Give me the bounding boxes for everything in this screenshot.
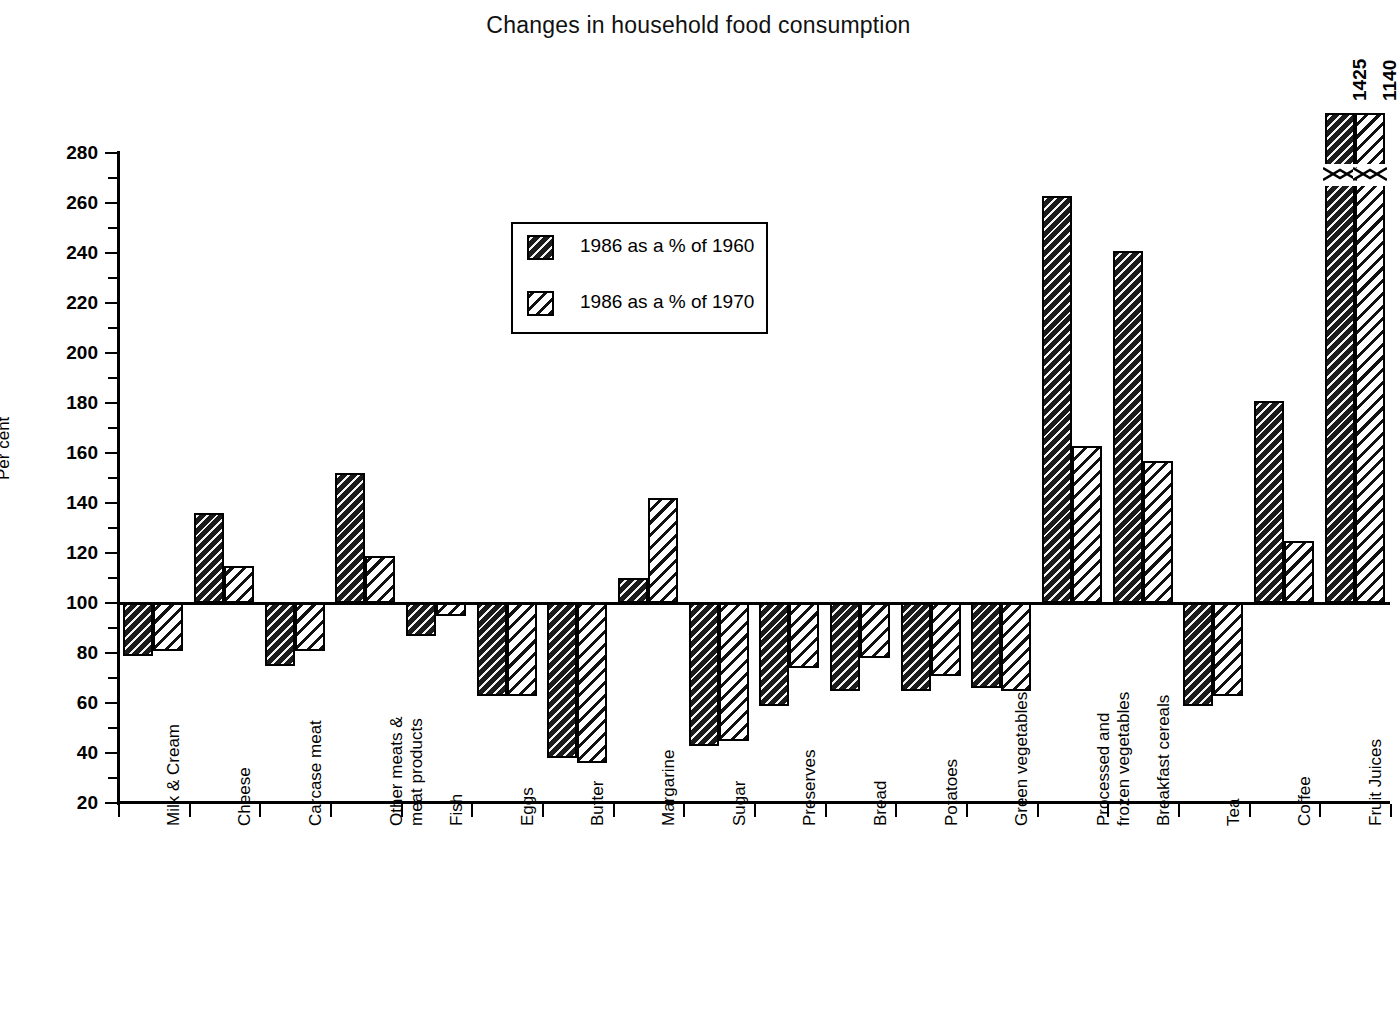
chart-legend: 1986 as a % of 1960 1986 as a % of 1970 — [511, 222, 768, 334]
x-tick — [189, 804, 191, 817]
x-axis-label-0: Milk & Cream — [164, 724, 183, 826]
legend-swatch-dark-icon — [527, 235, 554, 260]
bar-s1-11[interactable] — [901, 603, 931, 691]
x-axis-label-11: Potatoes — [942, 759, 961, 826]
bar-value-annotation: 1140 — [1379, 60, 1397, 101]
x-axis-label-line: Sugar — [730, 781, 749, 826]
x-axis-label-9: Preserves — [800, 749, 819, 826]
x-tick — [1037, 804, 1039, 817]
x-axis-label-line: Preserves — [800, 749, 819, 826]
bar-s2-12[interactable] — [1001, 603, 1031, 691]
bar-s2-14[interactable] — [1143, 461, 1173, 604]
bar-s1-6[interactable] — [547, 603, 577, 758]
bar-s2-9[interactable] — [789, 603, 819, 668]
x-axis-label-line: Fruit Juices — [1366, 739, 1385, 826]
x-tick — [825, 804, 827, 817]
y-tick-label: 60 — [40, 692, 98, 714]
x-tick — [895, 804, 897, 817]
x-axis-label-line: Tea — [1224, 799, 1243, 826]
bar-s2-0[interactable] — [153, 603, 183, 651]
bar-s1-5[interactable] — [477, 603, 507, 696]
bar-s1-16[interactable] — [1254, 401, 1284, 604]
bar-s2-10[interactable] — [860, 603, 890, 658]
chart-figure: Changes in household food consumption Pe… — [0, 0, 1397, 1031]
x-axis-label-line: Milk & Cream — [164, 724, 183, 826]
y-tick-label: 220 — [40, 292, 98, 314]
bar-s1-10[interactable] — [830, 603, 860, 691]
legend-label-1: 1986 as a % of 1970 — [580, 291, 754, 313]
y-tick-label: 160 — [40, 442, 98, 464]
bar-s1-7[interactable] — [618, 578, 648, 603]
bar-s2-16[interactable] — [1284, 541, 1314, 604]
x-axis-label-4: Fish — [447, 794, 466, 826]
x-axis-label-7: Margarine — [659, 749, 678, 826]
x-axis-label-line: Potatoes — [942, 759, 961, 826]
bar-s1-8[interactable] — [689, 603, 719, 746]
bar-s1-3[interactable] — [335, 473, 365, 603]
x-axis-label-17: Fruit Juices — [1366, 739, 1385, 826]
x-axis-label-line: Fish — [447, 794, 466, 826]
x-tick — [683, 804, 685, 817]
x-axis-label-6: Butter — [588, 781, 607, 826]
x-tick — [118, 804, 120, 817]
y-tick-label: 40 — [40, 742, 98, 764]
bar-s1-12[interactable] — [971, 603, 1001, 688]
y-tick-label: 80 — [40, 642, 98, 664]
y-axis-title: Per cent — [0, 417, 14, 480]
bar-s2-15[interactable] — [1213, 603, 1243, 696]
x-axis-label-12: Green vegetables — [1012, 692, 1031, 826]
bar-s2-6[interactable] — [577, 603, 607, 763]
bar-s2-5[interactable] — [507, 603, 537, 696]
bar-s1-4[interactable] — [406, 603, 436, 636]
x-tick — [330, 804, 332, 817]
bar-s1-17-lower[interactable] — [1325, 186, 1355, 603]
x-axis-label-line: Bread — [871, 781, 890, 826]
y-axis-tick-labels: 20406080100120140160180200220240260280 — [34, 0, 98, 1031]
x-axis-label-line: Breakfast cereals — [1154, 695, 1173, 826]
bar-s2-4[interactable] — [436, 603, 466, 616]
y-tick-label: 240 — [40, 242, 98, 264]
x-axis-label-15: Tea — [1224, 799, 1243, 826]
x-axis-label-line: Carcase meat — [306, 720, 325, 826]
x-tick — [966, 804, 968, 817]
legend-swatch-light-icon — [527, 291, 554, 316]
bar-s2-1[interactable] — [224, 566, 254, 604]
x-axis-label-line: Coffee — [1295, 776, 1314, 826]
x-axis-label-16: Coffee — [1295, 776, 1314, 826]
bar-s1-13[interactable] — [1042, 196, 1072, 604]
y-tick-label: 260 — [40, 192, 98, 214]
bar-s2-11[interactable] — [931, 603, 961, 676]
bar-s1-1[interactable] — [194, 513, 224, 603]
x-tick — [754, 804, 756, 817]
x-axis-label-1: Cheese — [235, 767, 254, 826]
y-tick-label: 180 — [40, 392, 98, 414]
y-tick-label: 140 — [40, 492, 98, 514]
bar-s1-15[interactable] — [1183, 603, 1213, 706]
y-tick-label: 200 — [40, 342, 98, 364]
bar-s1-0[interactable] — [123, 603, 153, 656]
x-axis-label-8: Sugar — [730, 781, 749, 826]
x-axis-label-5: Eggs — [518, 787, 537, 826]
bar-s1-2[interactable] — [265, 603, 295, 666]
y-axis-spine — [117, 151, 120, 805]
bar-s2-17-lower[interactable] — [1355, 186, 1385, 603]
bar-s2-2[interactable] — [295, 603, 325, 651]
x-axis-label-line: Margarine — [659, 749, 678, 826]
y-tick-label: 120 — [40, 542, 98, 564]
x-axis-label-3: Other meats &meat products — [387, 716, 427, 826]
y-tick-label: 280 — [40, 142, 98, 164]
bar-s2-13[interactable] — [1072, 446, 1102, 604]
x-axis-label-line: Butter — [588, 781, 607, 826]
bar-s2-8[interactable] — [719, 603, 749, 741]
x-axis-label-line: Eggs — [518, 787, 537, 826]
bar-s2-7[interactable] — [648, 498, 678, 603]
x-axis-label-line: Other meats & — [387, 716, 407, 826]
x-axis-label-line: meat products — [407, 716, 427, 826]
x-axis-label-13: Processed andfrozen vegetables — [1094, 692, 1134, 826]
x-tick — [613, 804, 615, 817]
bar-s1-14[interactable] — [1113, 251, 1143, 604]
bar-s1-9[interactable] — [759, 603, 789, 706]
x-tick — [542, 804, 544, 817]
bar-s2-3[interactable] — [365, 556, 395, 604]
x-axis-label-10: Bread — [871, 781, 890, 826]
